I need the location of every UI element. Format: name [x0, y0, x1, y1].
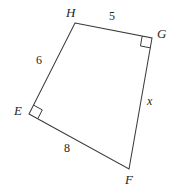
vertex-label-E: E — [14, 104, 22, 117]
side-label-HG: 5 — [109, 10, 115, 22]
vertex-label-F: F — [125, 173, 133, 186]
right-angle-marks-group — [34, 36, 151, 119]
side-label-EH: 6 — [36, 54, 42, 66]
figure-canvas — [0, 0, 171, 192]
quadrilateral-outline — [29, 23, 152, 169]
vertex-label-G: G — [157, 27, 166, 40]
geometry-figure: H G F E 5 x 8 6 — [0, 0, 171, 192]
side-label-FE: 8 — [64, 142, 70, 154]
side-label-GF: x — [147, 95, 152, 107]
vertex-label-H: H — [66, 6, 75, 19]
